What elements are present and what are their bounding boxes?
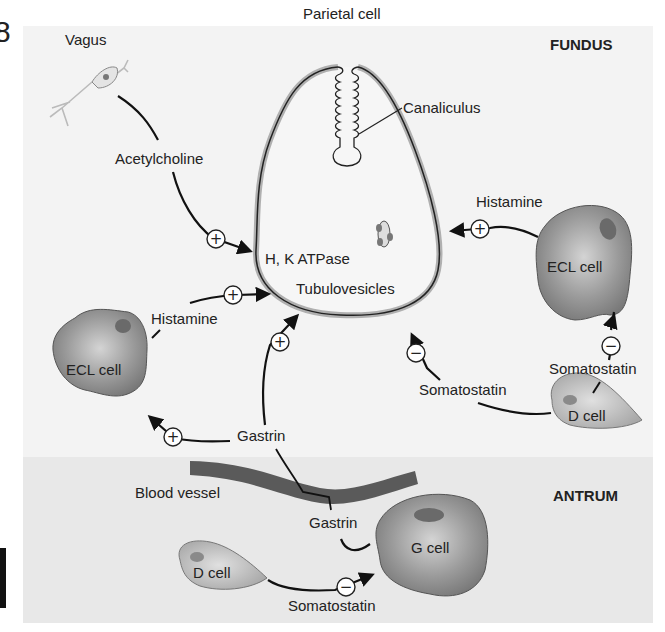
gastrin-g-label: Gastrin bbox=[309, 514, 357, 531]
gastrin-ecl-plus-sign: + bbox=[164, 428, 182, 446]
svg-text:+: + bbox=[210, 230, 223, 248]
svg-text:−: − bbox=[605, 337, 618, 355]
fundus-label: FUNDUS bbox=[550, 36, 613, 53]
d-cell-antrum-label: D cell bbox=[193, 564, 231, 581]
somatostatin-parietal-minus-sign: − bbox=[407, 344, 425, 362]
acetylcholine-plus-sign: + bbox=[207, 230, 225, 248]
somatostatin-ecl-minus-sign: − bbox=[602, 337, 620, 355]
h-k-atpase-label: H, K ATPase bbox=[265, 250, 350, 267]
svg-text:+: + bbox=[474, 220, 487, 238]
tubulovesicles-label: Tubulovesicles bbox=[296, 280, 395, 297]
svg-text:+: + bbox=[227, 286, 240, 304]
somatostatin-ecl-label: Somatostatin bbox=[549, 360, 637, 377]
somatostatin-parietal-label: Somatostatin bbox=[419, 381, 507, 398]
vagus-label: Vagus bbox=[65, 31, 106, 48]
gastrin-parietal-plus-sign: + bbox=[271, 333, 289, 351]
ecl-cell-left-label: ECL cell bbox=[66, 361, 121, 378]
figure-number-fragment: 8 bbox=[0, 15, 11, 48]
histamine-right-label: Histamine bbox=[476, 193, 543, 210]
blood-vessel-label: Blood vessel bbox=[135, 484, 220, 501]
histamine-right-plus-sign: + bbox=[471, 220, 489, 238]
edge-bar bbox=[0, 548, 6, 608]
somatostatin-g-minus-sign: − bbox=[337, 578, 355, 596]
g-cell-label: G cell bbox=[411, 539, 449, 556]
svg-text:−: − bbox=[340, 578, 353, 596]
gastrin-label: Gastrin bbox=[237, 427, 285, 444]
histamine-left-label: Histamine bbox=[151, 310, 218, 327]
somatostatin-g-label: Somatostatin bbox=[288, 597, 376, 614]
antrum-label: ANTRUM bbox=[553, 487, 618, 504]
parietal-cell-label: Parietal cell bbox=[303, 5, 381, 22]
svg-text:−: − bbox=[410, 344, 423, 362]
g-cell: G cell bbox=[376, 494, 488, 596]
histamine-left-plus-sign: + bbox=[224, 286, 242, 304]
canaliculus-label: Canaliculus bbox=[403, 99, 481, 116]
ecl-cell-fundus-label: ECL cell bbox=[547, 258, 602, 275]
acetylcholine-label: Acetylcholine bbox=[115, 150, 203, 167]
ecl-cell-fundus: ECL cell bbox=[536, 205, 632, 320]
d-cell-fundus-label: D cell bbox=[568, 407, 606, 424]
svg-text:+: + bbox=[167, 428, 180, 446]
svg-text:+: + bbox=[274, 333, 287, 351]
gastric-acid-regulation-diagram: 8 FUNDUS ANTRUM Parietal cell Canaliculu… bbox=[0, 0, 665, 632]
